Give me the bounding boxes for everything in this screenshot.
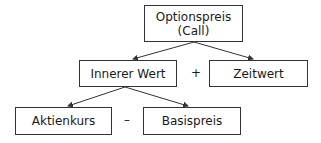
node-option-price: Optionspreis (Call)	[144, 5, 243, 42]
arrow-root-to-intrinsic	[133, 42, 194, 59]
node-intrinsic-value-label: Innerer Wert	[90, 67, 165, 81]
node-time-value-label: Zeitwert	[233, 67, 283, 81]
operator-plus: +	[191, 67, 201, 79]
arrow-intrinsic-to-strikeprice	[125, 87, 188, 106]
arrow-root-to-timevalue	[194, 42, 253, 59]
node-option-price-line2: (Call)	[178, 24, 210, 38]
node-strike-price: Basispreis	[143, 107, 241, 135]
node-strike-price-label: Basispreis	[162, 114, 223, 128]
node-stock-price: Aktienkurs	[15, 107, 112, 135]
node-time-value: Zeitwert	[209, 60, 308, 87]
node-option-price-line1: Optionspreis	[156, 10, 232, 24]
arrow-intrinsic-to-stockprice	[68, 87, 125, 106]
operator-minus: –	[124, 114, 130, 126]
node-intrinsic-value: Innerer Wert	[79, 60, 177, 87]
node-stock-price-label: Aktienkurs	[32, 114, 96, 128]
